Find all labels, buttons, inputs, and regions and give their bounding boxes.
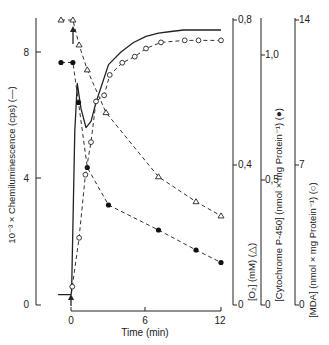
cl-axis-label: 10⁻³ × Chemiluminescence (cps) (—) <box>6 86 17 243</box>
mda-marker <box>182 38 187 43</box>
cl-tick-0: 0 <box>23 299 29 310</box>
o2-marker <box>76 42 82 47</box>
chart-canvas: 0 4 8 10⁻³ × Chemiluminescence (cps) (—)… <box>0 0 329 345</box>
cyt-marker <box>193 247 198 252</box>
mda-marker <box>83 172 88 177</box>
cyt-marker <box>156 227 161 232</box>
x-tick-12: 12 <box>214 315 226 326</box>
o2-marker <box>193 199 199 204</box>
o2-marker <box>103 110 109 115</box>
cl-tick-4: 4 <box>23 173 29 184</box>
mda-tick-14: 14 <box>299 14 311 25</box>
mda-marker <box>159 40 164 45</box>
o2-tick-0: 0 <box>238 299 244 310</box>
cyt-marker <box>218 260 223 265</box>
mda-axis: 14 7 0 [MDA] (nmol × mg Protein⁻¹) (○) <box>295 14 318 318</box>
cyt-marker <box>58 60 63 65</box>
mda-tick-7: 7 <box>299 159 305 170</box>
plot-area <box>58 17 224 295</box>
cl-line <box>59 30 222 295</box>
cyt-marker <box>70 60 75 65</box>
mda-marker <box>70 284 75 289</box>
o2-axis: 0,8 0,4 0 [O₂] (mM) (△) <box>233 14 257 310</box>
mda-marker <box>89 140 94 145</box>
o2-marker <box>218 213 224 218</box>
x-tick-0: 0 <box>68 315 74 326</box>
mda-marker <box>219 38 224 43</box>
mda-marker <box>77 235 82 240</box>
cyt-tick-0: 0 <box>265 299 271 310</box>
o2-tick-04: 0,4 <box>238 159 252 170</box>
mda-marker <box>94 99 99 104</box>
mda-marker <box>120 60 125 65</box>
o2-marker <box>84 67 90 72</box>
mda-marker <box>107 73 112 78</box>
mda-axis-label: [MDA] (nmol × mg Protein⁻¹) (○) <box>307 182 318 318</box>
o2-tick-08: 0,8 <box>238 14 252 25</box>
cyt-axis: 1,0 0,5 0 [Cytochrome P-450] (nmol × mg … <box>261 18 284 310</box>
x-tick-6: 6 <box>142 315 148 326</box>
cytochrome-p-450-fit-line <box>61 63 221 263</box>
cyt-axis-label: [Cytochrome P-450] (nmol × mg Protein⁻¹)… <box>273 108 284 302</box>
mda-tick-0: 0 <box>299 299 305 310</box>
cyt-marker <box>106 202 111 207</box>
left-axis: 0 4 8 10⁻³ × Chemiluminescence (cps) (—) <box>6 18 41 310</box>
mda-marker <box>144 46 149 51</box>
x-axis: 0 6 12 Time (min) <box>68 307 226 338</box>
cyt-tick-10: 1,0 <box>265 49 279 60</box>
cyt-marker <box>76 100 81 105</box>
mda-marker <box>196 38 201 43</box>
o2-axis-label: [O₂] (mM) (△) <box>246 243 257 301</box>
o2-fit-line <box>61 20 221 216</box>
mda-marker <box>102 93 107 98</box>
mda-marker <box>132 54 137 59</box>
cl-tick-8: 8 <box>23 47 29 58</box>
mda-fit-line <box>72 40 221 286</box>
x-axis-label: Time (min) <box>121 327 168 338</box>
